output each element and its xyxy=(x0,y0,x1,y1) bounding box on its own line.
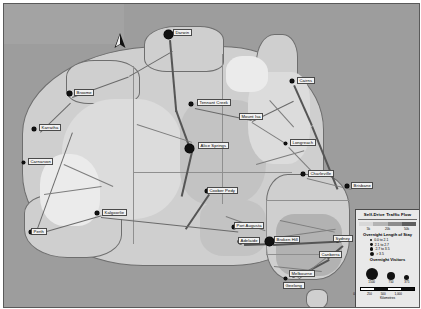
visitor-circle-item: 375 xyxy=(404,275,409,284)
visitor-circle-value: 375 xyxy=(404,280,409,284)
state-boundary-wa-nt xyxy=(133,66,134,244)
city-marker[interactable] xyxy=(67,91,72,96)
stay-class-label: 0.0 to 2.1 xyxy=(374,238,388,242)
city-label: Cairns xyxy=(297,77,315,84)
city-label: Charleville xyxy=(308,170,334,177)
scale-bar-segment xyxy=(374,288,387,291)
scale-bar-segment xyxy=(361,288,374,291)
flow-ramp-segment xyxy=(388,222,402,226)
legend-title: Self-Drive Traffic Flow xyxy=(356,210,419,219)
city-marker[interactable] xyxy=(22,161,25,164)
traffic-flow-tick-labels: 5k20k50k xyxy=(359,227,416,231)
visitor-circle xyxy=(387,272,395,280)
state-boundary-nt-qld xyxy=(222,54,223,204)
stay-class-row: 2.1 to 2.7 xyxy=(370,243,419,247)
scale-bar-segment xyxy=(388,288,401,291)
landmass-tasmania xyxy=(306,289,328,308)
city-label: Port Augusta xyxy=(234,222,264,229)
city-marker[interactable] xyxy=(95,211,99,215)
city-label: Geelong xyxy=(283,282,305,289)
interior-region-gulf xyxy=(226,56,268,92)
stay-class-label: > 3.5 xyxy=(376,252,384,256)
stay-heading: Overnight Length of Stay xyxy=(356,232,419,237)
stay-class-dot xyxy=(370,247,373,250)
stay-class-label: 2.7 to 3.5 xyxy=(375,247,389,251)
city-label: Coober Pedy xyxy=(207,187,238,194)
flow-ramp-segment xyxy=(402,222,416,226)
city-marker[interactable] xyxy=(265,237,274,246)
city-label: Alice Springs xyxy=(198,142,229,149)
city-label: Carnarvon xyxy=(28,158,53,165)
visitor-circle xyxy=(366,268,378,280)
legend-divider xyxy=(358,219,417,220)
city-label: Tennant Creek xyxy=(197,99,231,106)
state-boundary-nt-sa xyxy=(133,172,223,173)
stay-class-row: 2.7 to 3.5 xyxy=(370,247,419,251)
city-label: Kalgoorlie xyxy=(102,209,127,216)
legend-panel[interactable]: Self-Drive Traffic Flow 5k20k50k Overnig… xyxy=(355,209,420,308)
traffic-flow-ramp xyxy=(359,222,416,226)
scale-bar-value: 1,000 xyxy=(394,292,408,296)
scale-bar-value: 500 xyxy=(381,292,395,296)
stay-class-row: > 3.5 xyxy=(370,252,419,256)
landmass-kimberley xyxy=(66,60,140,104)
visitor-circle-item: 750 xyxy=(387,272,395,284)
flow-tick-label: 50k xyxy=(397,227,416,231)
ocean-shade-light xyxy=(4,4,124,44)
city-label: Melbourne xyxy=(289,270,315,277)
stay-class-dot xyxy=(370,243,373,246)
city-marker[interactable] xyxy=(284,142,287,145)
city-marker[interactable] xyxy=(301,172,305,176)
stay-class-label: 2.1 to 2.7 xyxy=(375,243,389,247)
visitor-circle-item: 1500 xyxy=(366,268,378,284)
flow-tick-label: 20k xyxy=(378,227,397,231)
city-label: Sydney xyxy=(333,235,353,242)
map-page: DarwinBroomeKarrathaCarnarvonPerthKalgoo… xyxy=(0,0,421,309)
city-marker[interactable] xyxy=(284,277,287,280)
flow-tick-label: 5k xyxy=(359,227,378,231)
stay-class-dot xyxy=(370,252,374,256)
map-canvas[interactable]: DarwinBroomeKarrathaCarnarvonPerthKalgoo… xyxy=(3,3,420,308)
city-label: Canberra xyxy=(319,251,342,258)
stay-class-list: 0.0 to 2.12.1 to 2.72.7 to 3.5> 3.5 xyxy=(356,238,419,256)
city-label: Brisbane xyxy=(351,182,373,189)
visitor-circle-list: 1500750375 xyxy=(361,264,414,284)
scale-bar-numbers: 02505001,000 xyxy=(360,292,415,296)
flow-ramp-segment xyxy=(359,222,373,226)
flow-ramp-segment xyxy=(373,222,387,226)
city-marker[interactable] xyxy=(189,102,193,106)
scale-bar: 02505001,000 Kilometres xyxy=(360,287,415,300)
city-label: Broken Hill xyxy=(274,236,300,243)
scale-bar-unit: Kilometres xyxy=(360,296,415,300)
scale-bar-value: 0 xyxy=(353,292,367,296)
visitors-heading: Overnight Visitors xyxy=(356,257,419,262)
stay-class-dot xyxy=(370,239,372,241)
city-label: Longreach xyxy=(290,139,316,146)
state-boundary-qld-nsw xyxy=(266,200,350,201)
visitor-circle-value: 750 xyxy=(387,280,395,284)
north-arrow-icon xyxy=(113,33,127,49)
state-boundary-sa-qld xyxy=(222,172,292,173)
city-label: Adelaide xyxy=(238,237,260,244)
city-marker[interactable] xyxy=(185,144,194,153)
city-label: Darwin xyxy=(173,29,192,36)
scale-bar-value: 250 xyxy=(367,292,381,296)
scale-bar-segment xyxy=(401,288,414,291)
city-label: Karratha xyxy=(39,124,61,131)
city-label: Broome xyxy=(74,89,94,96)
city-label: Mount Isa xyxy=(239,113,263,120)
city-marker[interactable] xyxy=(164,30,173,39)
stay-class-row: 0.0 to 2.1 xyxy=(370,238,419,242)
visitor-circle-value: 1500 xyxy=(366,280,378,284)
city-label: Perth xyxy=(31,228,47,235)
